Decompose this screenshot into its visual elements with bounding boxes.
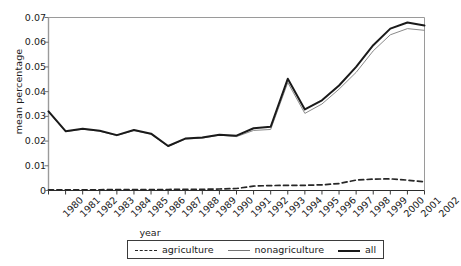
legend-entry-all: all [338,244,376,255]
legend-swatch-nonagriculture [228,246,250,254]
legend-swatch-all [338,246,360,254]
legend-label: all [365,244,376,255]
legend-entry-agriculture: agriculture [135,244,214,255]
legend-entry-nonagriculture: nonagriculture [228,244,324,255]
series-line-agriculture [49,179,425,190]
series-line-all [49,22,425,146]
legend-label: nonagriculture [255,244,324,255]
legend-label: agriculture [162,244,214,255]
chart-legend: agriculturenonagricultureall [127,240,384,259]
series-line-nonagriculture [49,29,425,147]
legend-swatch-agriculture [135,246,157,254]
